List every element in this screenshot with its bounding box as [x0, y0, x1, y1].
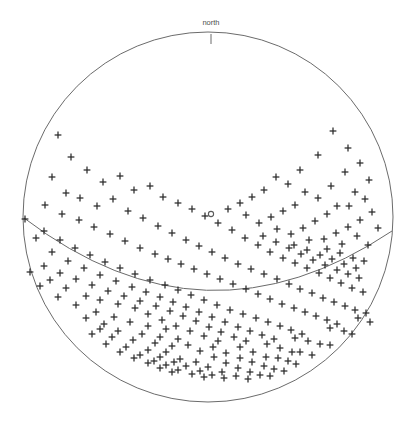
skyplot-canvas: north — [0, 0, 414, 426]
skyplot-figure: north — [0, 0, 414, 426]
north-label: north — [202, 18, 219, 27]
